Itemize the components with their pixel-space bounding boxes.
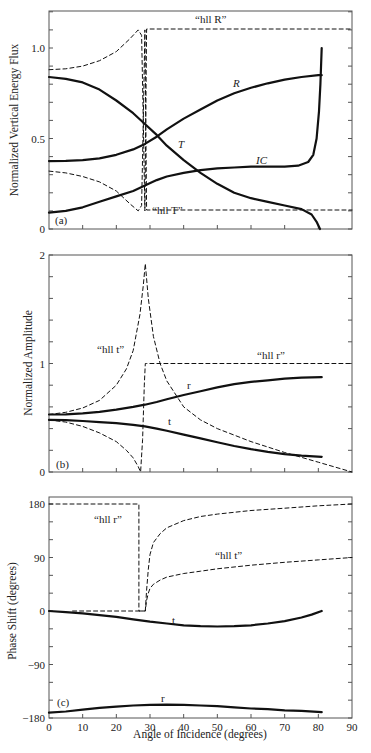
panel-a-frame [49, 11, 352, 229]
panel-c-frame [49, 497, 352, 718]
label-hll-r: “hll r” [257, 349, 285, 361]
panel-b-ylabel: Normalized Amplitude [22, 310, 35, 416]
panel-c-curves [49, 504, 352, 713]
panel-a-energy-flux: 00.51.0 Normalized Vertical Energy Flux … [8, 11, 352, 235]
label-t: t [168, 415, 171, 427]
panel-c-phase-shift: 180900−90−180 Phase Shift (degrees) (c) … [6, 497, 352, 724]
curve-r [49, 705, 322, 713]
y-tick-label: 180 [29, 498, 46, 510]
label-t-phase: t [172, 614, 175, 626]
label-hll-r-phase: “hll r” [94, 513, 122, 525]
y-tick-label: 90 [34, 552, 46, 564]
curve-ic [49, 48, 322, 213]
curve-hll-r [49, 29, 352, 211]
chart-canvas: 00.51.0 Normalized Vertical Energy Flux … [0, 0, 371, 753]
curve-t [49, 77, 320, 229]
y-tick-label: 0 [40, 223, 46, 235]
curve-hll-t [49, 30, 352, 211]
panel-b-tag: (b) [56, 458, 69, 471]
label-hll-R: “hll R” [195, 13, 227, 25]
panel-a-tag: (a) [55, 214, 68, 227]
x-tick-label: 20 [111, 721, 123, 733]
x-tick-label: 10 [77, 721, 89, 733]
y-tick-label: −180 [22, 712, 45, 724]
label-r-phase: r [161, 692, 165, 704]
label-IC: IC [255, 154, 268, 166]
curve-t [49, 611, 322, 627]
panel-b-amplitude: 012 Normalized Amplitude (b) “hll t” “hl… [22, 249, 352, 478]
figure: 00.51.0 Normalized Vertical Energy Flux … [0, 0, 371, 753]
y-tick-label: 0 [40, 466, 46, 478]
x-tick-label: 0 [46, 721, 52, 733]
x-tick-label: 70 [279, 721, 291, 733]
panel-a-ticks: 00.51.0 [31, 12, 352, 235]
y-tick-label: 0 [40, 605, 46, 617]
panel-c-ticks: 180900−90−180 [22, 498, 352, 724]
x-axis-title: Angle of Incidence (degrees) [133, 728, 267, 741]
y-tick-label: −90 [28, 659, 46, 671]
y-tick-label: 2 [40, 249, 46, 261]
panel-a-curves [49, 29, 352, 229]
label-R: R [232, 77, 240, 89]
panel-a-ylabel: Normalized Vertical Energy Flux [8, 43, 21, 196]
x-tick-label: 90 [347, 721, 359, 733]
curve-hll-t [49, 264, 352, 472]
label-r: r [187, 379, 191, 391]
panel-b-curves [49, 264, 352, 472]
x-tick-label: 80 [313, 721, 325, 733]
curve-t [49, 420, 322, 457]
curve-r [49, 377, 322, 414]
label-hll-T: “hll T” [152, 204, 183, 216]
y-tick-label: 1.0 [31, 42, 45, 54]
y-tick-label: 1 [40, 358, 46, 370]
label-hll-t-phase: “hll t” [215, 549, 242, 561]
panel-c-ylabel: Phase Shift (degrees) [6, 562, 19, 660]
label-hll-t: “hll t” [97, 343, 124, 355]
curve-hll-t [73, 558, 352, 612]
label-T: T [178, 138, 185, 150]
panel-c-tag: (c) [57, 696, 70, 709]
y-tick-label: 0.5 [31, 133, 45, 145]
curve-r [49, 75, 322, 161]
